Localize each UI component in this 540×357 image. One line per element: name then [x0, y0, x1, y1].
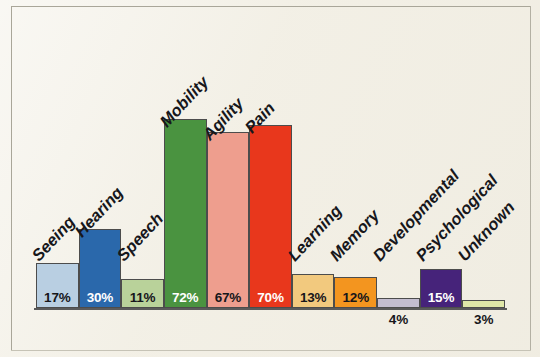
bar-unknown — [462, 300, 505, 308]
category-label-speech: Speech — [113, 209, 167, 265]
bar-pain — [249, 125, 292, 308]
bar-agility — [207, 132, 250, 308]
bar-mobility — [164, 119, 207, 308]
bar-chart-plot-area: 17%Seeing30%Hearing11%Speech72%Mobility6… — [0, 0, 540, 357]
bar-value-label: 72% — [164, 290, 207, 305]
bar-value-label: 12% — [334, 290, 377, 305]
bar-value-label: 15% — [420, 290, 463, 305]
x-axis-baseline — [34, 308, 507, 310]
bar-value-label: 30% — [79, 290, 122, 305]
bar-developmental — [377, 298, 420, 308]
bar-value-label: 67% — [207, 290, 250, 305]
category-label-seeing: Seeing — [28, 212, 79, 265]
chart-page: 17%Seeing30%Hearing11%Speech72%Mobility6… — [0, 0, 540, 357]
bar-value-label: 70% — [249, 290, 292, 305]
bar-value-label: 3% — [462, 312, 505, 327]
bar-value-label: 13% — [292, 290, 335, 305]
bar-value-label: 11% — [121, 290, 164, 305]
bar-value-label: 17% — [36, 290, 79, 305]
bar-value-label: 4% — [377, 312, 420, 327]
